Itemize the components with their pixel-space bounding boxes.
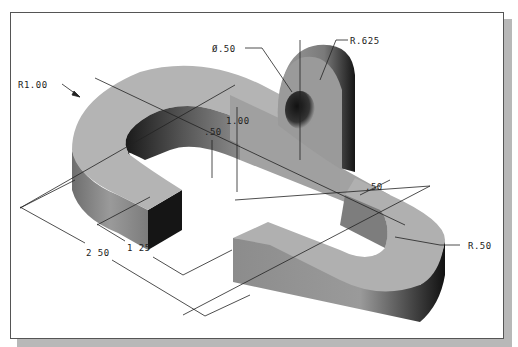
- dim-inner-height: .50: [204, 127, 222, 137]
- dim-length-inner: 1 25: [127, 243, 151, 253]
- dim-length-outer: 2 50: [86, 248, 110, 258]
- dim-boss-radius: R.625: [350, 36, 380, 46]
- dim-hole-diameter: Ø.50: [212, 44, 236, 54]
- dim-inner-radius: R.50: [468, 241, 492, 251]
- dim-outer-radius: R1.00: [18, 80, 48, 90]
- dim-slot-width: .50: [365, 182, 383, 192]
- dim-total-height: 1.00: [226, 116, 250, 126]
- isometric-part-drawing: Ø.50 R.625 R1.00 .50 1.00 .50 R.50 1 25 …: [0, 0, 518, 347]
